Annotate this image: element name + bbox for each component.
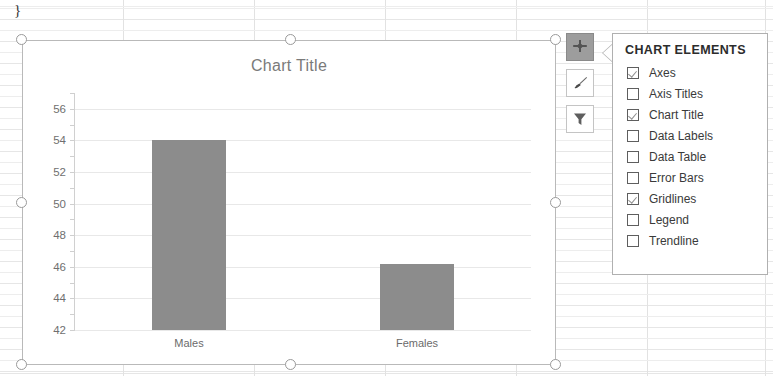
panel-item-data-table[interactable]: Data Table bbox=[613, 146, 767, 167]
chart-object[interactable]: Chart Title 4244464850525456 MalesFemale… bbox=[22, 40, 556, 365]
plot-area[interactable] bbox=[75, 93, 531, 330]
panel-item-label: Trendline bbox=[649, 234, 699, 248]
panel-item-data-labels[interactable]: Data Labels bbox=[613, 125, 767, 146]
panel-item-axis-titles[interactable]: Axis Titles bbox=[613, 83, 767, 104]
checkbox-axis-titles[interactable] bbox=[627, 88, 639, 100]
chart-filters-button[interactable] bbox=[566, 105, 594, 133]
panel-item-label: Error Bars bbox=[649, 171, 704, 185]
panel-item-label: Data Labels bbox=[649, 129, 713, 143]
value-axis-tick-label: 54 bbox=[38, 134, 66, 146]
funnel-icon bbox=[572, 111, 588, 127]
panel-item-axes[interactable]: Axes bbox=[613, 62, 767, 83]
value-axis-tick-mark bbox=[70, 109, 74, 110]
panel-header: CHART ELEMENTS bbox=[613, 34, 767, 62]
category-axis-label: Females bbox=[396, 337, 438, 349]
bar-females[interactable] bbox=[380, 264, 454, 330]
chart-styles-button[interactable] bbox=[566, 69, 594, 97]
gridline bbox=[75, 235, 531, 236]
selection-handle-bottom-left[interactable] bbox=[16, 359, 27, 370]
checkbox-error-bars[interactable] bbox=[627, 172, 639, 184]
gridline bbox=[75, 267, 531, 268]
panel-item-error-bars[interactable]: Error Bars bbox=[613, 167, 767, 188]
value-axis-tick-mark bbox=[70, 330, 74, 331]
checkbox-gridlines[interactable] bbox=[627, 193, 639, 205]
excel-chart-screenshot: } Chart Title 4244464850525456 MalesFema… bbox=[0, 0, 773, 376]
value-axis-tick-mark bbox=[70, 314, 74, 315]
value-axis-tick-label: 46 bbox=[38, 261, 66, 273]
chart-floating-toolbar[interactable] bbox=[566, 33, 596, 141]
value-axis-tick-label: 52 bbox=[38, 166, 66, 178]
panel-item-label: Chart Title bbox=[649, 108, 704, 122]
value-axis-tick-mark bbox=[70, 219, 74, 220]
value-axis-tick-mark bbox=[70, 125, 74, 126]
gridline bbox=[75, 109, 531, 110]
checkbox-chart-title[interactable] bbox=[627, 109, 639, 121]
value-axis-tick-mark bbox=[70, 93, 74, 94]
chart-elements-panel[interactable]: CHART ELEMENTS AxesAxis TitlesChart Titl… bbox=[612, 33, 768, 275]
panel-item-label: Data Table bbox=[649, 150, 706, 164]
bar-males[interactable] bbox=[152, 140, 226, 330]
panel-item-label: Axes bbox=[649, 66, 676, 80]
checkbox-trendline[interactable] bbox=[627, 235, 639, 247]
panel-item-legend[interactable]: Legend bbox=[613, 209, 767, 230]
chart-title[interactable]: Chart Title bbox=[23, 57, 555, 75]
panel-item-label: Axis Titles bbox=[649, 87, 703, 101]
value-axis-tick-label: 48 bbox=[38, 229, 66, 241]
selection-handle-middle-right[interactable] bbox=[550, 197, 561, 208]
checkbox-data-table[interactable] bbox=[627, 151, 639, 163]
value-axis-tick-mark bbox=[70, 235, 74, 236]
chart-elements-button[interactable] bbox=[566, 33, 594, 61]
checkbox-data-labels[interactable] bbox=[627, 130, 639, 142]
value-axis-tick-label: 50 bbox=[38, 198, 66, 210]
checkbox-legend[interactable] bbox=[627, 214, 639, 226]
selection-handle-bottom-center[interactable] bbox=[285, 359, 296, 370]
panel-item-trendline[interactable]: Trendline bbox=[613, 230, 767, 251]
value-axis-tick-label: 42 bbox=[38, 324, 66, 336]
selection-handle-middle-left[interactable] bbox=[16, 197, 27, 208]
selection-handle-top-left[interactable] bbox=[16, 34, 27, 45]
value-axis-tick-mark bbox=[70, 188, 74, 189]
selection-handle-top-center[interactable] bbox=[285, 34, 296, 45]
value-axis-tick-label: 44 bbox=[38, 292, 66, 304]
panel-item-label: Gridlines bbox=[649, 192, 696, 206]
value-axis-tick-mark bbox=[70, 156, 74, 157]
gridline bbox=[75, 204, 531, 205]
panel-item-label: Legend bbox=[649, 213, 689, 227]
value-axis-tick-mark bbox=[70, 283, 74, 284]
value-axis-tick-mark bbox=[70, 298, 74, 299]
value-axis-tick-mark bbox=[70, 140, 74, 141]
gridline bbox=[75, 172, 531, 173]
value-axis-tick-mark bbox=[70, 251, 74, 252]
value-axis-tick-label: 56 bbox=[38, 103, 66, 115]
selection-handle-top-right[interactable] bbox=[550, 34, 561, 45]
paintbrush-icon bbox=[572, 75, 589, 92]
cell-text-remnant: } bbox=[14, 2, 20, 19]
panel-item-list[interactable]: AxesAxis TitlesChart TitleData LabelsDat… bbox=[613, 62, 767, 251]
panel-item-chart-title[interactable]: Chart Title bbox=[613, 104, 767, 125]
gridline bbox=[75, 330, 531, 331]
value-axis-tick-mark bbox=[70, 204, 74, 205]
gridline bbox=[75, 298, 531, 299]
panel-item-gridlines[interactable]: Gridlines bbox=[613, 188, 767, 209]
value-axis-tick-mark bbox=[70, 267, 74, 268]
checkbox-axes[interactable] bbox=[627, 67, 639, 79]
selection-handle-bottom-right[interactable] bbox=[550, 359, 561, 370]
plus-icon bbox=[572, 39, 588, 55]
value-axis-tick-mark bbox=[70, 172, 74, 173]
category-axis-label: Males bbox=[174, 337, 203, 349]
gridline bbox=[75, 140, 531, 141]
